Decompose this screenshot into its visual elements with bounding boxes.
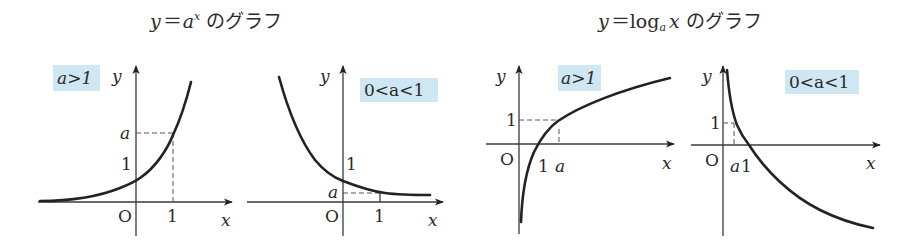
graph-exp-a-lt-1: 0<a<1 y x O 1 1 a — [247, 66, 443, 236]
graphs-figure: y＝axのグラフ y＝logaxのグラフ a>1 y x O 1 1 a 0<a… — [0, 0, 913, 250]
condition-tag: 0<a<1 — [364, 80, 424, 100]
y-axis-label: y — [495, 66, 506, 86]
tick-y-a: a — [328, 182, 338, 202]
origin-label: O — [325, 206, 339, 226]
origin-label: O — [705, 150, 719, 170]
tick-x-1: 1 — [167, 206, 178, 226]
tick-x-1: 1 — [741, 156, 752, 176]
x-axis-label: x — [221, 210, 231, 230]
graph-log-a-lt-1: 0<a<1 y x O a 1 1 — [691, 66, 880, 236]
condition-tag: 0<a<1 — [789, 72, 849, 92]
condition-tag: a>1 — [57, 68, 92, 88]
tick-y-a: a — [120, 123, 130, 143]
curve-exp-increasing — [40, 82, 191, 201]
tick-x-a: a — [730, 156, 740, 176]
tick-x-a: a — [555, 156, 565, 176]
origin-label: O — [500, 149, 514, 169]
graph-log-a-gt-1: a>1 y x O 1 a 1 — [486, 65, 674, 234]
tick-x-1: 1 — [538, 156, 549, 176]
title-exponential: y＝axのグラフ — [149, 10, 282, 32]
tick-x-1: 1 — [374, 206, 385, 226]
x-axis-label: x — [662, 153, 672, 173]
title-logarithm: y＝logaxのグラフ — [597, 10, 762, 34]
origin-label: O — [118, 206, 132, 226]
tick-y-1: 1 — [710, 113, 721, 133]
x-axis-label: x — [428, 210, 438, 230]
condition-tag: a>1 — [561, 68, 596, 88]
tick-y-1: 1 — [121, 154, 132, 174]
graph-exp-a-gt-1: a>1 y x O 1 1 a — [38, 65, 232, 236]
x-axis-label: x — [866, 153, 876, 173]
tick-y-1: 1 — [506, 110, 517, 130]
y-axis-label: y — [701, 66, 712, 86]
tick-y-1: 1 — [346, 154, 357, 174]
curve-log-increasing — [521, 78, 670, 222]
y-axis-label: y — [111, 66, 122, 86]
y-axis-label: y — [319, 66, 330, 86]
